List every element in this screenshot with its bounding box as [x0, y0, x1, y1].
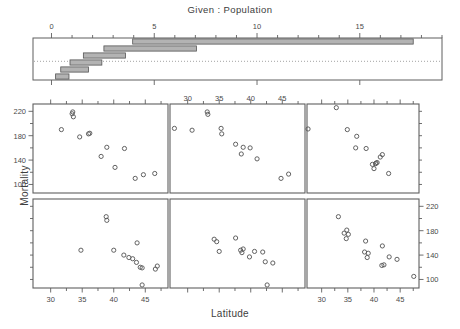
y-axis-title: Mortality — [19, 126, 30, 246]
data-point — [122, 253, 126, 257]
data-point — [141, 173, 145, 177]
data-point — [364, 146, 368, 150]
x-tick-30: 30 — [317, 295, 325, 304]
data-point — [265, 283, 269, 287]
data-point — [255, 157, 259, 161]
data-point — [112, 248, 116, 252]
x-tick-45: 45 — [141, 295, 149, 304]
data-point — [133, 176, 137, 180]
x-tick-35: 35 — [344, 295, 352, 304]
scatter-panel — [170, 100, 305, 194]
x-axis-title: Latitude — [0, 308, 460, 319]
y-tick-220: 220 — [13, 107, 26, 116]
coplot-figure: Given : Population 051015 30354045100140… — [0, 0, 460, 329]
data-point — [346, 232, 350, 236]
data-point — [355, 134, 359, 138]
data-point — [239, 152, 243, 156]
scatter-panel — [30, 199, 168, 293]
x-tick-top-45: 45 — [278, 94, 286, 103]
data-point — [354, 146, 358, 150]
x-tick-35: 35 — [78, 295, 86, 304]
x-tick-top-30: 30 — [183, 94, 191, 103]
scatter-panel — [307, 199, 424, 293]
data-point — [261, 250, 265, 254]
data-point — [172, 126, 176, 130]
data-point — [247, 255, 251, 259]
data-point — [271, 261, 275, 265]
y-tick-180: 180 — [426, 226, 439, 235]
data-point — [234, 236, 238, 240]
x-tick-40: 40 — [110, 295, 118, 304]
data-point — [131, 257, 135, 261]
x-tick-45: 45 — [396, 295, 404, 304]
data-point — [365, 255, 369, 259]
data-point — [113, 165, 117, 169]
data-point — [134, 260, 138, 264]
data-point — [364, 239, 368, 243]
data-point — [279, 176, 283, 180]
data-point — [99, 154, 103, 158]
scatter-panel — [29, 100, 169, 194]
data-point — [287, 172, 291, 176]
data-point — [234, 142, 238, 146]
data-point — [345, 128, 349, 132]
data-point — [220, 132, 224, 136]
data-point — [219, 126, 223, 130]
data-point — [387, 255, 391, 259]
data-point — [215, 240, 219, 244]
data-point — [122, 146, 126, 150]
scatter-panel — [306, 100, 422, 194]
data-point — [140, 283, 144, 287]
data-point — [105, 145, 109, 149]
data-point — [387, 171, 391, 175]
data-point — [153, 171, 157, 175]
data-point — [345, 228, 349, 232]
data-point — [380, 244, 384, 248]
data-point — [59, 128, 63, 132]
y-tick-220: 220 — [426, 202, 439, 211]
x-tick-top-40: 40 — [247, 94, 255, 103]
data-point — [412, 274, 416, 278]
data-point — [217, 249, 221, 253]
data-point — [79, 248, 83, 252]
data-point — [263, 260, 267, 264]
data-point — [252, 249, 256, 253]
dependence-panels — [0, 0, 460, 329]
scatter-panel — [170, 199, 305, 293]
data-point — [334, 106, 338, 110]
data-point — [78, 135, 82, 139]
x-tick-top-35: 35 — [215, 94, 223, 103]
data-point — [135, 241, 139, 245]
x-tick-30: 30 — [46, 295, 54, 304]
data-point — [241, 145, 245, 149]
data-point — [190, 128, 194, 132]
data-point — [344, 237, 348, 241]
data-point — [372, 167, 376, 171]
y-tick-140: 140 — [426, 251, 439, 260]
data-point — [212, 237, 216, 241]
data-point — [336, 215, 340, 219]
data-point — [395, 257, 399, 261]
y-tick-100: 100 — [426, 275, 439, 284]
x-tick-40: 40 — [370, 295, 378, 304]
data-point — [248, 146, 252, 150]
